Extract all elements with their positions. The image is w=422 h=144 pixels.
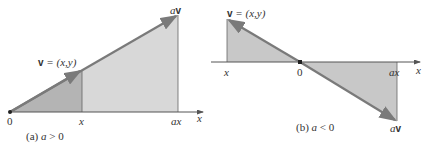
caption-b: (b) a < 0 xyxy=(296,121,335,134)
origin-label: 0 xyxy=(297,66,303,78)
panel-a: 0 x ax x v = (x,y) av (a) a > 0 xyxy=(7,4,203,143)
panel-b: x 0 ax x v = (x,y) av (b) a < 0 xyxy=(211,7,421,134)
x-tick-label: x xyxy=(223,66,229,78)
v-label: v = (x,y) xyxy=(38,56,77,69)
caption-a: (a) a > 0 xyxy=(26,130,64,143)
ax-tick-label: ax xyxy=(171,115,182,127)
x-tick-label: x xyxy=(78,115,84,127)
axis-label: x xyxy=(415,64,421,76)
ax-tick-label: ax xyxy=(389,66,400,78)
origin-dot xyxy=(298,60,302,64)
av-label: av xyxy=(390,122,402,134)
origin-label: 0 xyxy=(7,115,13,127)
scalar-multiple-diagram: 0 x ax x v = (x,y) av (a) a > 0 x 0 ax x… xyxy=(0,0,422,144)
av-label: av xyxy=(170,4,182,16)
v-label: v = (x,y) xyxy=(227,7,266,20)
origin-dot xyxy=(8,110,12,114)
axis-label: x xyxy=(196,112,202,124)
